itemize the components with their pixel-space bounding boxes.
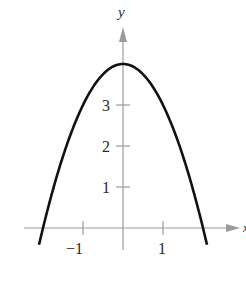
- y-ticks: 1 2 3: [102, 97, 130, 196]
- y-axis-label: y: [116, 4, 125, 20]
- chart-svg: x y −1 1 1 2 3: [0, 0, 246, 285]
- y-tick-label-3: 3: [102, 97, 110, 114]
- x-ticks: −1 1: [66, 221, 166, 257]
- y-axis-arrow-icon: [119, 27, 127, 42]
- y-tick-label-1: 1: [102, 179, 110, 196]
- x-tick-label-1: 1: [158, 240, 166, 257]
- x-axis-label: x: [242, 221, 246, 235]
- x-axis-arrow-icon: [226, 224, 240, 232]
- y-tick-label-2: 2: [102, 138, 110, 155]
- parabola-chart: x y −1 1 1 2 3: [0, 0, 246, 285]
- x-tick-label-neg1: −1: [66, 240, 83, 257]
